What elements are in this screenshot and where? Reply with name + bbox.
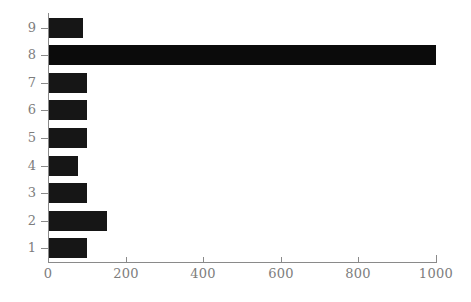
x-tick-400 (203, 257, 204, 262)
y-tick-label-6: 6 (16, 103, 36, 116)
bar-7[interactable] (48, 73, 87, 93)
x-tick-label-600: 600 (251, 266, 311, 281)
x-tick-label-200: 200 (96, 266, 156, 281)
y-tick-label-9: 9 (16, 21, 36, 34)
y-tick-6 (41, 110, 48, 111)
y-tick-label-4: 4 (16, 159, 36, 172)
y-tick-3 (41, 193, 48, 194)
bar-1[interactable] (48, 238, 87, 258)
x-tick-200 (126, 257, 127, 262)
y-tick-8 (41, 55, 48, 56)
y-tick-1 (41, 248, 48, 249)
y-tick-label-2: 2 (16, 214, 36, 227)
x-tick-label-0: 0 (18, 266, 78, 281)
y-tick-label-8: 8 (16, 48, 36, 61)
x-tick-label-800: 800 (328, 266, 388, 281)
bar-9[interactable] (48, 18, 83, 38)
x-tick-800 (358, 257, 359, 262)
y-axis-line (48, 13, 49, 263)
x-tick-label-400: 400 (173, 266, 233, 281)
y-tick-label-5: 5 (16, 131, 36, 144)
plot-area (48, 14, 436, 262)
x-tick-label-1000: 1000 (406, 266, 466, 281)
bar-5[interactable] (48, 128, 87, 148)
x-tick-600 (281, 257, 282, 262)
bar-chart-figure: 02004006008001000 987654321 (0, 0, 471, 302)
y-tick-2 (41, 221, 48, 222)
x-axis-line (48, 262, 437, 263)
bar-8[interactable] (48, 45, 436, 65)
y-tick-7 (41, 83, 48, 84)
y-tick-5 (41, 138, 48, 139)
bar-6[interactable] (48, 100, 87, 120)
y-tick-label-3: 3 (16, 186, 36, 199)
bar-4[interactable] (48, 156, 78, 176)
bar-3[interactable] (48, 183, 87, 203)
y-tick-4 (41, 166, 48, 167)
y-tick-label-1: 1 (16, 241, 36, 254)
bar-2[interactable] (48, 211, 107, 231)
y-tick-9 (41, 28, 48, 29)
x-axis-left-cap (48, 255, 49, 262)
x-axis-right-cap (436, 255, 437, 262)
y-tick-label-7: 7 (16, 76, 36, 89)
